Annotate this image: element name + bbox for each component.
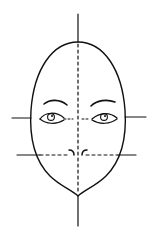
right-eye [92,114,117,124]
diagram-svg [0,0,157,237]
face-proportion-diagram: Face proportion guide [0,0,157,237]
left-eyebrow [44,100,67,105]
left-eye [40,113,64,123]
right-eyebrow [91,100,115,106]
